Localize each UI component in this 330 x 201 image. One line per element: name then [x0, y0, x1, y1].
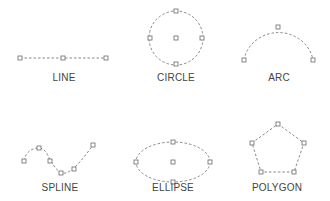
arc-handle-end[interactable] — [311, 58, 315, 62]
arc-label: ARC — [268, 72, 290, 83]
spline-handle-1[interactable] — [22, 159, 26, 163]
spline-shape[interactable] — [24, 145, 93, 173]
circle-handle-right[interactable] — [200, 36, 204, 40]
polygon-handle-4[interactable] — [259, 170, 263, 174]
polygon-handle-2[interactable] — [302, 141, 306, 145]
spline-handle-5[interactable] — [72, 167, 76, 171]
circle-handle-bottom[interactable] — [174, 62, 178, 66]
spline-handle-3[interactable] — [48, 159, 52, 163]
circle-handle-left[interactable] — [148, 36, 152, 40]
spline-handle-2[interactable] — [37, 146, 41, 150]
line-label: LINE — [52, 72, 75, 83]
circle-handle-top[interactable] — [174, 9, 178, 13]
arc-handle-top[interactable] — [276, 25, 280, 29]
ellipse-handle-top[interactable] — [171, 140, 175, 144]
line-handle-mid[interactable] — [61, 56, 65, 60]
ellipse-handle-center[interactable] — [171, 160, 175, 164]
arc-shape[interactable] — [244, 33, 313, 60]
polygon-handle-5[interactable] — [250, 141, 254, 145]
spline-label: SPLINE — [42, 182, 79, 193]
circle-handle-center[interactable] — [174, 36, 178, 40]
circle-label: CIRCLE — [157, 72, 195, 83]
line-handle-start[interactable] — [18, 56, 22, 60]
polygon-handle-3[interactable] — [292, 170, 296, 174]
ellipse-handle-right[interactable] — [208, 160, 212, 164]
line-handle-end[interactable] — [104, 56, 108, 60]
shapes-canvas — [0, 0, 330, 201]
spline-handle-4[interactable] — [59, 171, 63, 175]
ellipse-handle-left[interactable] — [134, 160, 138, 164]
polygon-shape[interactable] — [252, 124, 304, 172]
polygon-handle-1[interactable] — [276, 122, 280, 126]
polygon-label: POLYGON — [252, 182, 302, 193]
ellipse-label: ELLIPSE — [152, 182, 194, 193]
spline-handle-6[interactable] — [91, 143, 95, 147]
arc-handle-start[interactable] — [242, 58, 246, 62]
